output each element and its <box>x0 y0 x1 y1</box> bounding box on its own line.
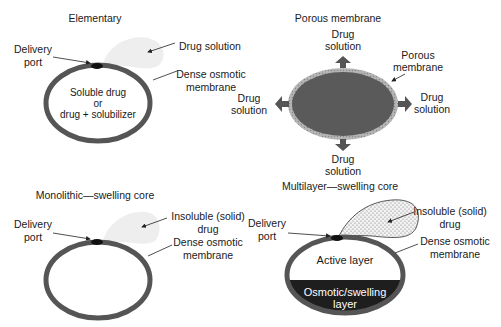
label-osmotic-layer-1: Osmotic/swelling <box>304 286 387 298</box>
label-delivery-port-1: Delivery <box>14 43 53 55</box>
panel-title-multilayer: Multilayer—swelling core <box>282 180 398 192</box>
label-bottom-1: Drug <box>332 153 355 165</box>
label-delivery-port-2: port <box>24 56 42 68</box>
drug-solution-plume <box>103 37 164 68</box>
panel-title-monolithic: Monolithic—swelling core <box>36 189 155 201</box>
label-left-1: Drug <box>238 92 261 104</box>
core-label-3: drug + solubilizer <box>60 109 137 120</box>
pointer-delivery-port <box>53 233 90 239</box>
label-osmotic-layer-2: layer <box>333 298 357 310</box>
panel-title-porous: Porous membrane <box>295 12 382 24</box>
panel-monolithic: Monolithic—swelling core Delivery port I… <box>14 189 245 318</box>
label-membrane-1: Dense osmotic <box>420 235 489 247</box>
label-active-layer: Active layer <box>317 254 374 266</box>
label-drug-2: drug <box>439 218 460 230</box>
label-delivery-port-2: port <box>258 230 276 242</box>
delivery-port <box>91 63 103 69</box>
label-right-1: Drug <box>421 91 444 103</box>
label-delivery-port-2: port <box>24 231 42 243</box>
label-drug-1: Insoluble (solid) <box>413 205 487 217</box>
label-top-1: Drug <box>332 28 355 40</box>
delivery-port <box>331 235 343 241</box>
label-bottom-2: solution <box>325 165 361 177</box>
label-porous-membrane-2: membrane <box>393 61 443 73</box>
label-drug-2: drug <box>197 223 218 235</box>
core-label-1: Soluble drug <box>70 87 126 98</box>
arrow-right-icon <box>398 96 412 112</box>
pointer-membrane <box>153 71 177 80</box>
pointer-delivery-port <box>288 233 330 236</box>
label-membrane-2: membrane <box>430 248 480 260</box>
label-drug-solution: Drug solution <box>179 40 241 52</box>
arrow-down-icon <box>335 139 351 151</box>
label-membrane-2: membrane <box>183 249 233 261</box>
label-left-2: solution <box>231 104 267 116</box>
label-delivery-port-1: Delivery <box>248 217 287 229</box>
porous-core <box>292 72 394 136</box>
label-delivery-port-1: Delivery <box>14 218 53 230</box>
label-right-2: solution <box>414 103 450 115</box>
panel-multilayer: Multilayer—swelling core Delivery port I… <box>248 180 490 320</box>
label-porous-membrane-1: Porous <box>401 49 434 61</box>
osmotic-membrane-tablet <box>46 242 150 318</box>
insoluble-drug-plume <box>339 200 418 238</box>
panel-elementary: Elementary Delivery port Drug solution D… <box>14 12 246 141</box>
insoluble-drug-plume <box>103 212 160 244</box>
label-top-2: solution <box>325 40 361 52</box>
core-label-2: or <box>94 98 104 109</box>
arrow-up-icon <box>335 56 351 68</box>
label-membrane-2: membrane <box>186 81 236 93</box>
osmotic-pump-diagram: Elementary Delivery port Drug solution D… <box>0 0 501 327</box>
panel-title-elementary: Elementary <box>68 12 122 24</box>
arrow-left-icon <box>275 96 289 112</box>
label-membrane-1: Dense osmotic <box>176 68 245 80</box>
label-membrane-1: Dense osmotic <box>173 236 242 248</box>
label-drug-1: Insoluble (solid) <box>171 210 245 222</box>
pointer-membrane <box>395 244 418 253</box>
panel-porous-membrane: Porous membrane Drug solution Drug solut… <box>231 12 450 177</box>
pointer-membrane <box>148 245 172 256</box>
delivery-port <box>91 239 103 245</box>
pointer-porous-membrane <box>392 74 405 81</box>
pointer-delivery-port <box>53 57 90 63</box>
